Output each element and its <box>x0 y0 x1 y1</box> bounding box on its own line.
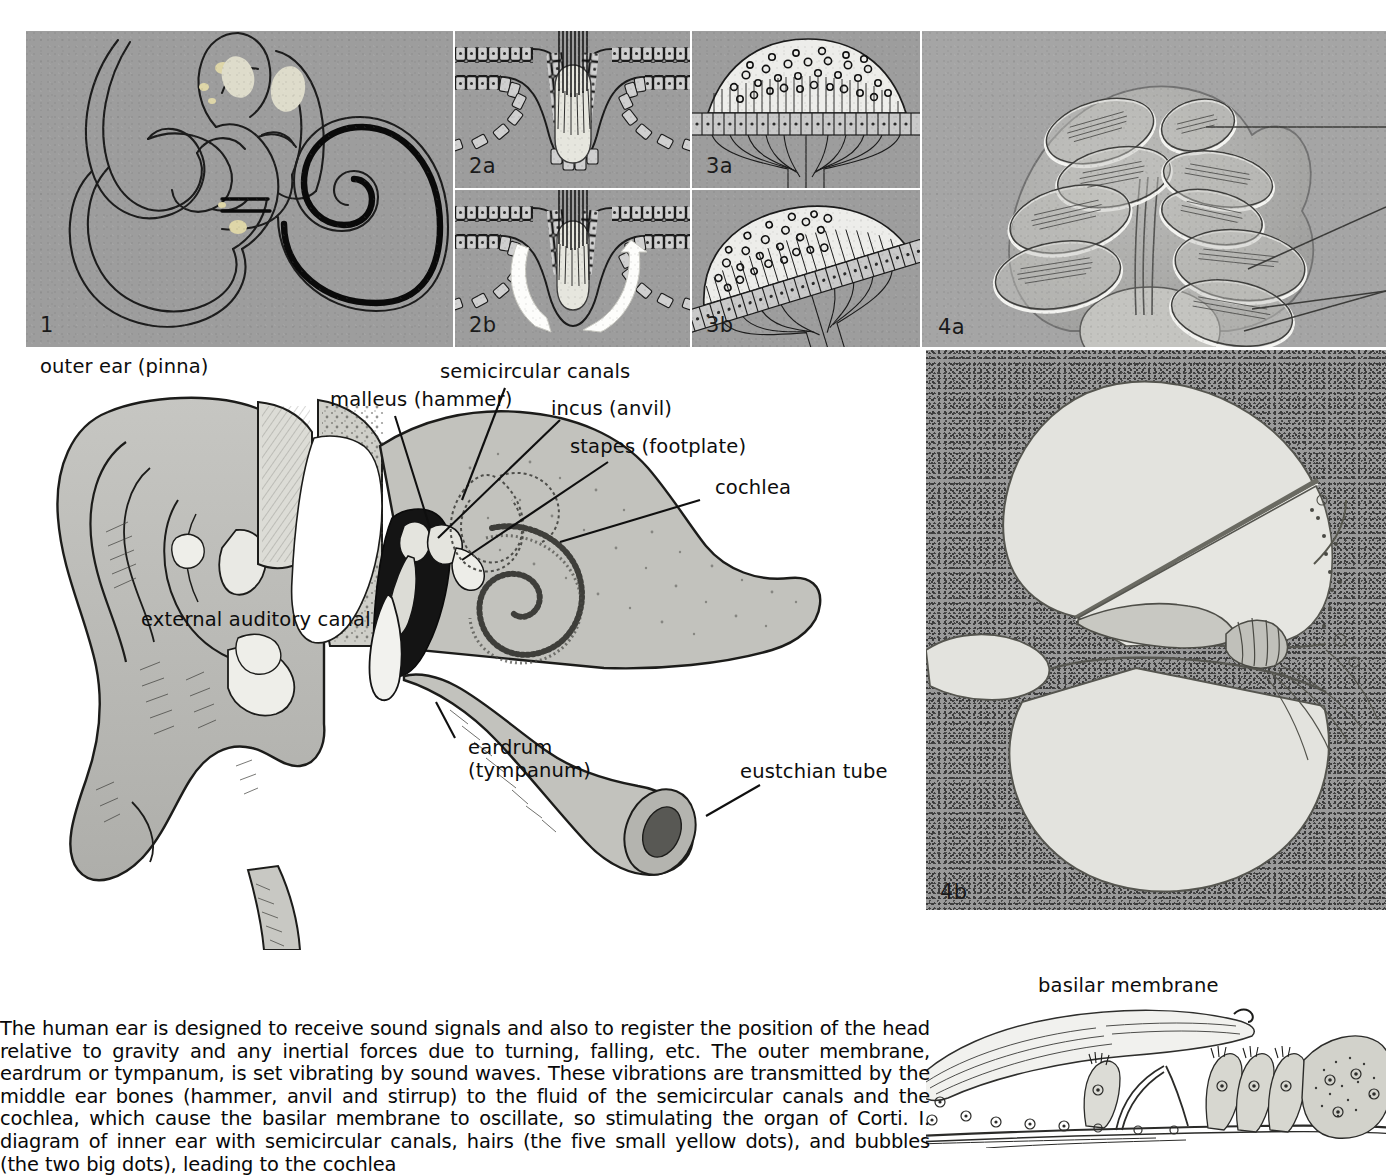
label-external-auditory-canal: external auditory canal <box>141 608 371 631</box>
panel-3b: 3b <box>692 190 920 347</box>
panel-2b: 2b <box>455 190 690 347</box>
panel-number-3a: 3a <box>706 154 733 178</box>
panel-number-4a: 4a <box>938 315 965 339</box>
panel-number-2b: 2b <box>469 313 497 337</box>
label-malleus: malleus (hammer) <box>330 388 512 411</box>
body-text: The human ear is designed to receive sou… <box>0 1018 930 1176</box>
label-eustachian-tube: eustchian tube <box>740 760 888 783</box>
label-semicircular-canals: semicircular canals <box>440 360 630 383</box>
label-cochlea: cochlea <box>715 476 791 499</box>
panel-number-1: 1 <box>40 313 54 337</box>
label-stapes: stapes (footplate) <box>570 435 746 458</box>
panel-1: 1 <box>26 31 453 347</box>
label-outer-ear: outer ear (pinna) <box>40 355 209 378</box>
panel-number-2a: 2a <box>469 154 496 178</box>
panel-2a: 2a <box>455 31 690 188</box>
flow-arrow-left <box>511 244 551 332</box>
body-paragraph: The human ear is designed to receive sou… <box>0 1018 930 1176</box>
panel-number-3b: 3b <box>706 313 734 337</box>
panel-3a: 3a <box>692 31 920 188</box>
label-basilar-membrane: basilar membrane <box>1038 974 1219 997</box>
main-ear-illustration: outer ear (pinna) malleus (hammer) semic… <box>0 350 926 950</box>
panel-number-4b: 4b <box>940 880 968 904</box>
organ-of-corti-detail: basilar membrane <box>926 930 1386 1148</box>
label-eardrum: eardrum (tympanum) <box>468 736 591 782</box>
label-incus: incus (anvil) <box>551 397 672 420</box>
panel-4a: 4a <box>922 31 1386 347</box>
panel-4b: 4b <box>926 350 1386 910</box>
